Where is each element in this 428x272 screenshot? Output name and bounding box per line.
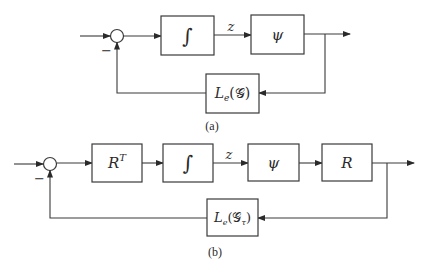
- diagram-b: − RT ∫ z ψ R Le(𝒢τ) (b): [14, 144, 414, 259]
- integral-symbol-a: ∫: [182, 24, 192, 48]
- psi-symbol-b: ψ: [268, 154, 280, 172]
- summing-junction-a: [111, 30, 124, 43]
- integral-symbol-b: ∫: [183, 151, 193, 175]
- block-diagrams: − ∫ z ψ Le(𝒢) (a) − RT ∫ z: [0, 0, 428, 272]
- caption-a: (a): [205, 119, 218, 133]
- summing-junction-b: [44, 158, 57, 171]
- caption-b: (b): [208, 245, 222, 259]
- diagram-a: − ∫ z ψ Le(𝒢) (a): [80, 15, 350, 133]
- minus-sign-a: −: [101, 43, 112, 58]
- minus-sign-b: −: [34, 171, 45, 186]
- psi-symbol-a: ψ: [272, 26, 284, 44]
- signal-z-label-a: z: [227, 19, 235, 34]
- signal-z-label-b: z: [225, 147, 233, 162]
- feedback-label-b: Le(𝒢τ): [213, 210, 251, 227]
- r-label-b: R: [340, 154, 352, 172]
- feedback-label-a: Le(𝒢): [214, 85, 251, 103]
